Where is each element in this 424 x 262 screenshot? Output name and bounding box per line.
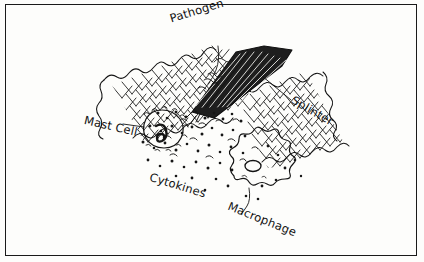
diagram-artwork (0, 0, 424, 262)
mast-cell (141, 107, 188, 152)
cytokine-rods (164, 119, 258, 161)
figure-canvas: Pathogen Splinter Mast Cell Cytokines Ma… (0, 0, 424, 262)
